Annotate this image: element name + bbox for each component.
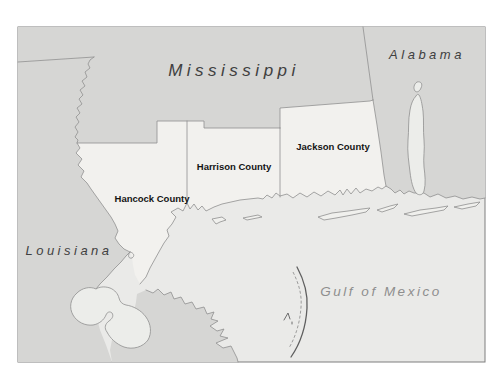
state-label-louisiana: Louisiana bbox=[25, 243, 112, 258]
state-label-alabama: Alabama bbox=[388, 47, 465, 62]
water-label-gulf-of-mexico: Gulf of Mexico bbox=[320, 284, 441, 299]
county-label-hancock: Hancock County bbox=[115, 193, 191, 204]
county-label-jackson: Jackson County bbox=[296, 141, 370, 152]
county-label-harrison: Harrison County bbox=[197, 161, 272, 172]
map-canvas: Mississippi Alabama Louisiana Gulf of Me… bbox=[0, 0, 502, 380]
coastal-counties-map: Mississippi Alabama Louisiana Gulf of Me… bbox=[0, 0, 502, 380]
state-label-mississippi: Mississippi bbox=[168, 61, 300, 80]
